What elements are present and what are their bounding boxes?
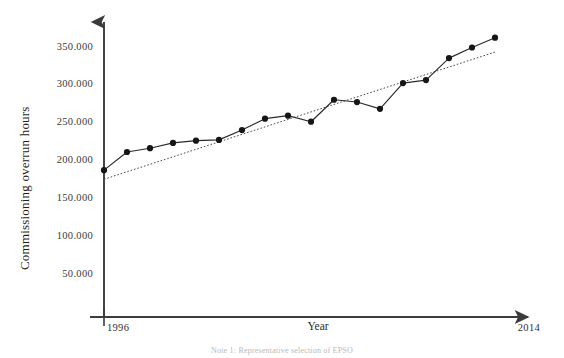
data-point-1996 <box>101 167 107 173</box>
data-point-2000 <box>193 138 199 144</box>
data-point-2006 <box>331 97 337 103</box>
data-point-2005 <box>308 119 314 125</box>
data-point-2004 <box>285 113 291 119</box>
data-point-1997 <box>124 149 130 155</box>
data-point-2003 <box>262 116 268 122</box>
data-point-2001 <box>216 137 222 143</box>
data-series-line <box>104 38 495 171</box>
data-point-2002 <box>239 127 245 133</box>
y-tick-label-150000: 150.000 <box>57 192 93 203</box>
figure-caption: Note 1: Representative selection of EPSO <box>211 346 353 355</box>
data-point-2013 <box>492 35 498 41</box>
y-tick-label-200000: 200.000 <box>57 154 93 165</box>
chart-container: 350.000 300.000 250.000 200.000 150.000 … <box>0 0 564 358</box>
data-point-2010 <box>423 77 429 83</box>
data-point-2008 <box>377 106 383 112</box>
y-tick-label-250000: 250.000 <box>57 116 93 127</box>
data-point-1998 <box>147 145 153 151</box>
data-point-2007 <box>354 99 360 105</box>
x-axis-title: Year <box>307 320 328 332</box>
y-tick-label-100000: 100.000 <box>57 230 93 241</box>
y-axis-title: Commissioning overrun hours <box>17 106 32 270</box>
data-point-markers <box>101 35 498 174</box>
y-tick-label-50000: 50.000 <box>62 268 93 279</box>
data-point-2011 <box>446 55 452 61</box>
y-tick-label-350000: 350.000 <box>57 41 93 52</box>
line-chart: 350.000 300.000 250.000 200.000 150.000 … <box>0 0 564 358</box>
trend-line <box>104 52 495 179</box>
y-tick-label-300000: 300.000 <box>57 78 93 89</box>
x-axis-end-label: 2014 <box>518 322 541 333</box>
data-point-2009 <box>400 80 406 86</box>
x-axis-start-label: 1996 <box>107 322 129 333</box>
data-point-2012 <box>469 44 475 50</box>
data-point-1999 <box>170 140 176 146</box>
